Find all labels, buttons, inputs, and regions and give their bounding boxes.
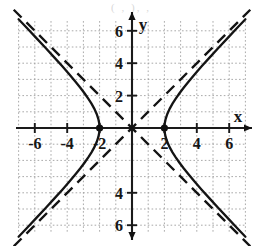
y-tick-label: 4 [115, 55, 123, 72]
x-tick-label: 4 [193, 135, 201, 152]
y-axis-arrow-down [128, 232, 135, 240]
y-axis-arrow-up [128, 12, 135, 20]
x-axis-arrow [244, 124, 252, 131]
vertex-dot [96, 124, 103, 131]
y-axis-label: y [139, 15, 148, 34]
vertex-dot [161, 124, 168, 131]
hyperbola-figure: -6-4-224664246 x y [0, 0, 262, 246]
y-tick-label: 6 [115, 217, 123, 234]
x-tick-label: -2 [93, 135, 106, 152]
y-tick-label: 6 [115, 23, 123, 40]
x-tick-label: 2 [160, 135, 168, 152]
x-tick-label: -6 [28, 135, 41, 152]
y-tick-label: 4 [115, 185, 123, 202]
y-tick-label: 2 [115, 88, 123, 105]
x-tick-label: -4 [61, 135, 74, 152]
x-tick-label: 6 [225, 135, 233, 152]
x-axis-label: x [234, 107, 243, 126]
graph-canvas: -6-4-224664246 x y [0, 0, 262, 246]
